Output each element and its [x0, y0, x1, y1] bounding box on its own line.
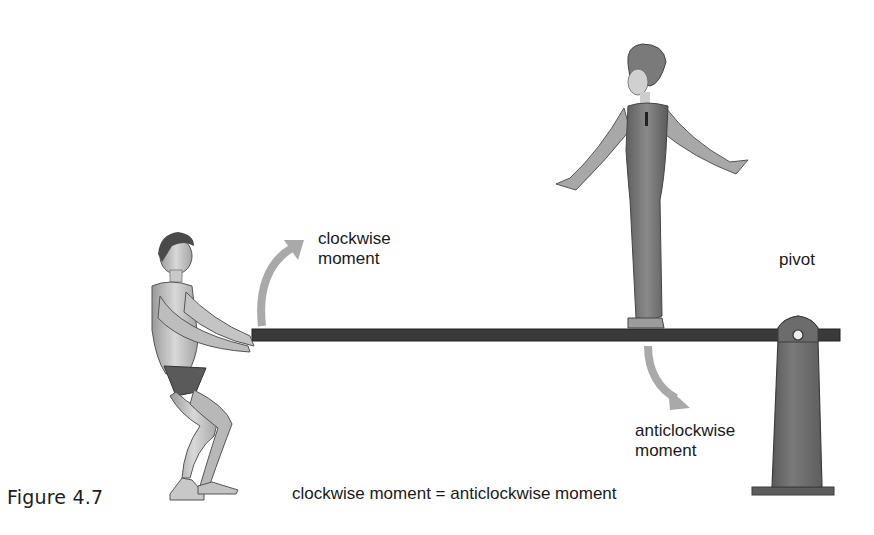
anticlockwise-label-line2: moment [635, 441, 735, 461]
pivot-pin-icon [793, 330, 803, 340]
moment-diagram: clockwise moment pivot anticlockwise mom… [0, 0, 874, 535]
pivot-cap [778, 316, 818, 342]
man-figure [152, 232, 254, 500]
anticlockwise-label-line1: anticlockwise [635, 421, 735, 441]
clockwise-arrow-icon [261, 240, 304, 326]
lever-beam [252, 329, 840, 341]
clockwise-label-line2: moment [318, 249, 391, 269]
anticlockwise-moment-label: anticlockwise moment [635, 421, 735, 461]
woman-figure [556, 44, 748, 328]
diagram-graphics [0, 0, 874, 535]
clockwise-label-line1: clockwise [318, 229, 391, 249]
moment-equation: clockwise moment = anticlockwise moment [292, 484, 617, 504]
pivot-post [752, 316, 834, 495]
figure-caption: Figure 4.7 [7, 486, 103, 508]
pivot-label: pivot [779, 250, 815, 270]
clockwise-moment-label: clockwise moment [318, 229, 391, 269]
anticlockwise-arrow-icon [648, 346, 690, 410]
